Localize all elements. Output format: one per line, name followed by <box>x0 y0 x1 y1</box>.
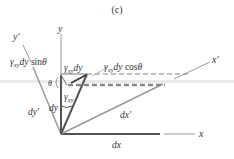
gamma-dy-cos-label: γxydy cosθ <box>104 62 143 73</box>
dy-prime-label: dy′ <box>28 107 40 117</box>
gamma-dy-label: γxydy <box>64 63 83 74</box>
dx-label: dx <box>112 140 122 150</box>
x-prime-axis <box>174 62 210 79</box>
panel-label: (c) <box>111 4 122 16</box>
dy-label: dy <box>49 103 59 113</box>
x-axis-label: x <box>198 128 204 139</box>
y-prime-axis-label: y′ <box>12 31 20 42</box>
dy-prime-edge <box>33 67 61 134</box>
gamma-dy-sin-label: γxydy sinθ <box>10 57 47 68</box>
dx-prime-label: dx′ <box>120 110 132 120</box>
gamma-xy-label: γxy <box>64 92 74 103</box>
gamma-arc <box>61 106 72 108</box>
strain-diagram: (c) y x y′ x′ γxydy sinθ γxydy γxydy cos… <box>0 0 234 159</box>
scan-band <box>0 80 234 83</box>
x-prime-axis-label: x′ <box>211 54 219 65</box>
theta-label: θ <box>48 79 52 88</box>
y-axis-label: y <box>57 23 63 34</box>
dx-prime-edge <box>61 84 163 134</box>
